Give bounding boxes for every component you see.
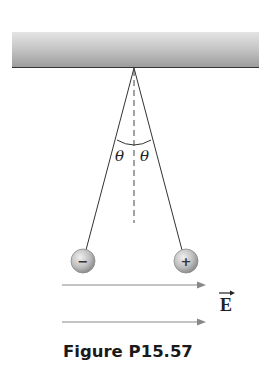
left-string <box>86 68 134 250</box>
pendulum-diagram: θ θ − + E Figure P15.57 <box>0 0 268 369</box>
field-symbol: E <box>220 295 232 315</box>
theta-left-label: θ <box>115 147 124 165</box>
negative-charge-sphere: − <box>71 249 95 273</box>
minus-sign: − <box>78 254 89 269</box>
field-arrow-bottom <box>62 319 206 326</box>
plus-sign: + <box>181 254 192 269</box>
theta-right-label: θ <box>140 147 149 165</box>
figure-caption: Figure P15.57 <box>63 342 193 361</box>
ceiling <box>12 32 259 68</box>
electric-field-label: E <box>219 291 235 316</box>
positive-charge-sphere: + <box>174 249 198 273</box>
field-arrow-top <box>62 282 206 289</box>
